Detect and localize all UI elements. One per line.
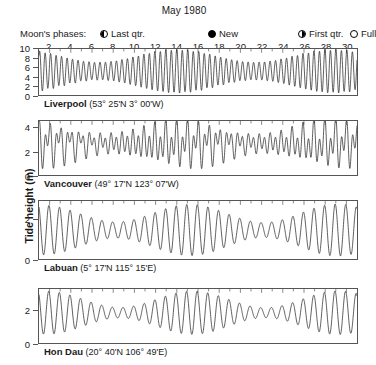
station-caption: Labuan (5° 17'N 115° 15'E): [44, 262, 156, 273]
station-coordinates: (49° 17'N 123° 07'W): [92, 179, 179, 189]
moon-phase-legend-label: Moon's phases:: [20, 28, 86, 39]
moon-phase-first-quarter: First qtr.: [298, 28, 343, 39]
moon-phase-label: Last qtr.: [111, 28, 145, 39]
moon-phase-legend: Moon's phases: Last qtr.NewFirst qtr.Ful…: [20, 28, 364, 41]
y-tick-label: 2: [16, 213, 30, 224]
moon-phase-last-quarter: Last qtr.: [100, 28, 145, 39]
y-tick-label: 0: [16, 339, 30, 350]
y-tick-label: 2: [16, 146, 30, 157]
moon-phase-label: First qtr.: [309, 28, 343, 39]
moon-phase-full-moon: Full: [350, 28, 376, 39]
station-name: Labuan: [44, 262, 78, 273]
y-tick-label: 0: [16, 91, 30, 102]
y-tick-label: 4: [16, 122, 30, 133]
tide-plot-area: [38, 288, 358, 344]
station-name: Hon Dau: [44, 346, 83, 357]
station-name: Liverpool: [44, 98, 87, 109]
y-tick-label: 4: [16, 71, 30, 82]
y-tick-label: 2: [16, 81, 30, 92]
y-tick-mark: [33, 127, 38, 128]
y-tick-mark: [33, 152, 38, 153]
y-tick-mark: [33, 260, 38, 261]
first-quarter-icon: [298, 30, 306, 38]
y-tick-label: 0: [16, 255, 30, 266]
y-tick-mark: [33, 58, 38, 59]
y-tick-mark: [33, 219, 38, 220]
y-tick-label: 2: [16, 305, 30, 316]
y-tick-mark: [33, 67, 38, 68]
station-coordinates: (20° 40'N 106° 49'E): [83, 347, 167, 357]
station-name: Vancouver: [44, 178, 92, 189]
station-caption: Vancouver (49° 17'N 123° 07'W): [44, 178, 179, 189]
new-moon-icon: [208, 30, 216, 38]
full-moon-icon: [350, 30, 358, 38]
y-tick-mark: [33, 344, 38, 345]
station-coordinates: (53° 25'N 3° 00'W): [87, 99, 164, 109]
moon-phase-new-moon: New: [208, 28, 238, 39]
y-tick-mark: [33, 96, 38, 97]
y-tick-mark: [33, 86, 38, 87]
moon-phase-label: New: [219, 28, 238, 39]
station-caption: Liverpool (53° 25'N 3° 00'W): [44, 98, 163, 109]
y-tick-label: 8: [16, 52, 30, 63]
y-tick-mark: [33, 77, 38, 78]
last-quarter-icon: [100, 30, 108, 38]
tide-plot-area: [38, 200, 358, 260]
y-tick-label: 6: [16, 62, 30, 73]
y-tick-mark: [33, 310, 38, 311]
moon-phase-label: Full: [361, 28, 376, 39]
y-tick-mark: [33, 176, 38, 177]
tide-plot-area: [38, 48, 358, 96]
chart-title: May 1980: [0, 5, 368, 16]
y-tick-label: 10: [16, 43, 30, 54]
station-caption: Hon Dau (20° 40'N 106° 49'E): [44, 346, 167, 357]
y-axis-title: Tide height (m): [23, 146, 35, 266]
tide-plot-area: [38, 120, 358, 176]
y-tick-mark: [33, 48, 38, 49]
station-coordinates: (5° 17'N 115° 15'E): [78, 263, 157, 273]
y-tick-label: 0: [16, 171, 30, 182]
